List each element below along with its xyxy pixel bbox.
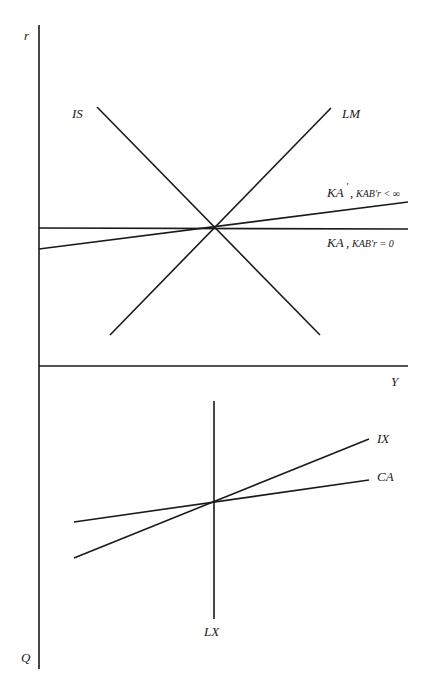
lx-label: LX — [203, 624, 220, 639]
ka-label: KA , KAB′r = 0 — [326, 235, 394, 250]
ca-curve — [74, 480, 369, 522]
lm-curve — [110, 108, 331, 335]
axis-label-y: Y — [391, 374, 400, 389]
ca-label: CA — [377, 469, 394, 484]
svg-text:KAB′r < ∞: KAB′r < ∞ — [355, 188, 400, 199]
axis-label-r: r — [24, 28, 30, 43]
svg-text:KA: KA — [326, 235, 344, 250]
axis-label-q: Q — [21, 650, 31, 665]
svg-text:KAB′r = 0: KAB′r = 0 — [351, 238, 394, 249]
ix-label: IX — [376, 431, 390, 446]
ka-curve — [39, 228, 408, 229]
svg-text:,: , — [346, 235, 349, 250]
ka-prime-label: KA ′ , KAB′r < ∞ — [326, 181, 400, 200]
diagram-canvas: r Q Y IS LM KA ′ , KAB′r < ∞ KA , KAB′r … — [0, 0, 427, 689]
svg-text:,: , — [350, 185, 353, 200]
lm-label: LM — [341, 106, 361, 121]
is-label: IS — [71, 106, 83, 121]
ix-curve — [74, 439, 369, 558]
svg-text:KA: KA — [326, 185, 344, 200]
is-curve — [97, 107, 320, 335]
svg-text:′: ′ — [346, 181, 349, 192]
